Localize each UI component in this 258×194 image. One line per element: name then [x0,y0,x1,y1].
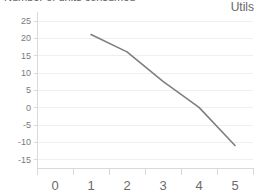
x-tick-label: 5 [231,178,238,193]
y-axis-tick-labels: 2520151050-5-10-15 [18,16,37,165]
x-axis [37,12,254,175]
x-tick-label: 3 [159,178,166,193]
y-tick-label: 15 [21,51,31,61]
gridlines [37,22,253,160]
y-tick-label: -15 [18,155,31,165]
y-tick-label: -10 [18,137,31,147]
y-tick-label: 0 [26,103,31,113]
x-tick-label: 0 [51,178,58,193]
y-tick-label: 10 [21,68,31,78]
x-tick-label: 2 [123,178,130,193]
y-tick-label: 25 [21,16,31,26]
x-axis-tick-labels: 012345 [51,178,238,193]
plot-area: 2520151050-5-10-15 012345 [0,0,258,194]
y-tick-label: 5 [26,85,31,95]
x-tick-label: 4 [195,178,202,193]
x-tick-label: 1 [87,178,94,193]
y-tick-label: 20 [21,33,31,43]
chart-container: Number of units consumed Utils 252015105… [0,0,258,194]
y-tick-label: -5 [23,120,31,130]
